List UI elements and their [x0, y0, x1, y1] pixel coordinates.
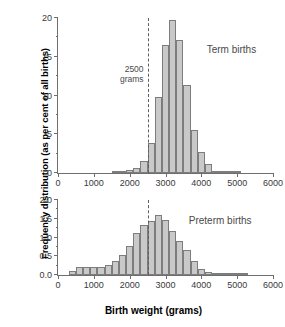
y-axis-tick-label: 20 — [42, 13, 52, 23]
plot-area-preterm: Preterm births 0.00.51.01.52.00100020003… — [57, 200, 273, 276]
x-axis-tick-label: 1000 — [84, 280, 104, 290]
panel-term-births: Term births 2500 grams 05101520010002000… — [0, 8, 285, 183]
y-axis-tick-label: 2.0 — [39, 195, 52, 205]
x-axis-tick-label: 3000 — [155, 178, 175, 188]
x-axis-tick-label: 2000 — [120, 280, 140, 290]
y-axis-tick-label: 0.5 — [39, 251, 52, 261]
y-axis-tick — [54, 56, 58, 57]
x-axis-tick-label: 5000 — [227, 178, 247, 188]
histogram-bar — [97, 267, 104, 275]
y-axis-tick — [54, 218, 58, 219]
histogram-bar — [155, 97, 162, 173]
histogram-bar — [226, 171, 233, 173]
y-axis-minor-tick — [56, 153, 59, 154]
histogram-bar — [105, 265, 112, 275]
histogram-bar — [169, 20, 176, 173]
bars-preterm — [58, 200, 273, 275]
x-axis-tick — [130, 275, 131, 279]
histogram-bar — [112, 171, 119, 173]
annotation-2500-line2: grams — [108, 74, 144, 84]
histogram-bar — [226, 273, 233, 275]
x-axis-tick — [237, 173, 238, 177]
histogram-bar — [191, 130, 198, 173]
y-axis-tick-label: 10 — [42, 91, 52, 101]
histogram-bar — [140, 161, 147, 173]
panel-preterm-births: Preterm births 0.00.51.01.52.00100020003… — [0, 188, 285, 303]
y-axis-minor-tick — [56, 265, 59, 266]
x-axis-tick — [94, 173, 95, 177]
histogram-bar — [162, 220, 169, 276]
series-label-preterm-births: Preterm births — [189, 215, 252, 226]
histogram-bar — [191, 261, 198, 275]
y-axis-minor-tick — [56, 75, 59, 76]
y-axis-tick-label: 15 — [42, 52, 52, 62]
x-axis-tick — [166, 275, 167, 279]
histogram-bar — [212, 273, 219, 275]
x-axis-tick — [58, 275, 59, 279]
histogram-bar — [148, 221, 155, 275]
histogram-bar — [205, 164, 212, 173]
x-axis-tick — [237, 275, 238, 279]
histogram-bar — [162, 45, 169, 173]
x-axis-tick — [201, 275, 202, 279]
x-axis-tick-label: 6000 — [263, 178, 283, 188]
histogram-bar — [241, 273, 248, 275]
y-axis-minor-tick — [56, 114, 59, 115]
y-axis-tick-label: 1.0 — [39, 233, 52, 243]
series-label-term-births: Term births — [207, 44, 256, 55]
y-axis-minor-tick — [56, 36, 59, 37]
histogram-bar — [90, 267, 97, 275]
histogram-bar — [219, 273, 226, 275]
y-axis-tick-label: 0.0 — [39, 270, 52, 280]
y-axis-tick-label: 0 — [47, 168, 52, 178]
y-axis-tick — [54, 255, 58, 256]
histogram-bar — [112, 261, 119, 275]
histogram-bar — [205, 272, 212, 275]
x-axis-tick-label: 2000 — [120, 178, 140, 188]
histogram-bar — [198, 152, 205, 173]
histogram-bar — [76, 267, 83, 275]
x-axis-tick-label: 0 — [55, 178, 60, 188]
histogram-bar — [140, 225, 147, 275]
x-axis-tick — [273, 275, 274, 279]
x-axis-tick-label: 1000 — [84, 178, 104, 188]
histogram-bar — [133, 168, 140, 173]
birth-weight-histogram-figure: Frequency distribution (as per cent of a… — [0, 0, 285, 327]
y-axis-tick — [54, 17, 58, 18]
marker-line-2500-preterm — [148, 200, 149, 275]
y-axis-tick — [54, 237, 58, 238]
y-axis-tick — [54, 199, 58, 200]
histogram-bar — [176, 241, 183, 275]
histogram-bar — [119, 171, 126, 173]
y-axis-tick — [54, 95, 58, 96]
histogram-bar — [212, 171, 219, 173]
histogram-bar — [169, 231, 176, 275]
histogram-bar — [133, 233, 140, 275]
x-axis-title: Birth weight (grams) — [0, 305, 285, 316]
histogram-bar — [183, 85, 190, 173]
histogram-bar — [119, 255, 126, 275]
x-axis-tick — [130, 173, 131, 177]
histogram-bar — [155, 215, 162, 275]
histogram-bar — [126, 246, 133, 275]
x-axis-tick-label: 3000 — [155, 280, 175, 290]
y-axis-tick — [54, 133, 58, 134]
bars-term — [58, 18, 273, 173]
y-axis-tick-label: 5 — [47, 129, 52, 139]
marker-line-2500-term — [148, 18, 149, 173]
histogram-bar — [148, 143, 155, 173]
x-axis-tick — [94, 275, 95, 279]
histogram-bar — [83, 267, 90, 275]
y-axis-minor-tick — [56, 208, 59, 209]
x-axis-tick-label: 5000 — [227, 280, 247, 290]
x-axis-tick — [166, 173, 167, 177]
x-axis-tick — [273, 173, 274, 177]
x-axis-tick-label: 6000 — [263, 280, 283, 290]
annotation-2500-line1: 2500 — [108, 64, 144, 74]
x-axis-tick-label: 4000 — [191, 178, 211, 188]
histogram-bar — [219, 171, 226, 173]
y-axis-minor-tick — [56, 246, 59, 247]
histogram-bar — [69, 271, 76, 276]
x-axis-tick-label: 0 — [55, 280, 60, 290]
plot-area-term: Term births 2500 grams 05101520010002000… — [57, 18, 273, 174]
